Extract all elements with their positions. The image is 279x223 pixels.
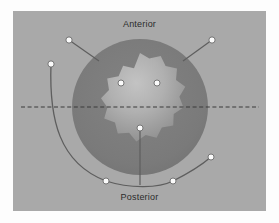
leader-anterior-left (69, 40, 99, 61)
diagram-panel: Anterior Posterior (13, 11, 266, 211)
figure-page: Anterior Posterior (0, 0, 279, 223)
marker-anterior-left[interactable] (66, 37, 72, 43)
marker-core-posterior[interactable] (137, 125, 143, 131)
marker-core-anterior-left[interactable] (118, 80, 124, 86)
label-posterior: Posterior (13, 192, 266, 202)
marker-core-anterior-right[interactable] (154, 80, 160, 86)
marker-lateral-left[interactable] (48, 61, 54, 67)
marker-posterior-left[interactable] (103, 178, 109, 184)
label-anterior: Anterior (13, 19, 266, 29)
leader-anterior-right (183, 40, 212, 61)
marker-anterior-right[interactable] (209, 37, 215, 43)
marker-posterior-right[interactable] (170, 178, 176, 184)
marker-lateral-right[interactable] (208, 154, 214, 160)
cross-section-diagram (13, 11, 266, 211)
